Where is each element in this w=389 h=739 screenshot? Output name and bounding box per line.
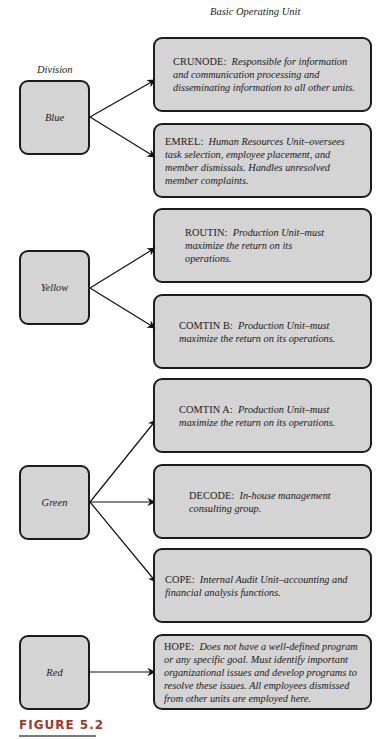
division-green: Green <box>19 465 90 540</box>
unit-routin: ROUTIN: Production Unit–must maximize th… <box>153 208 372 283</box>
division-label: Yellow <box>41 282 69 293</box>
unit-comtin-b: COMTIN B: Production Unit–must maximize … <box>153 294 372 369</box>
arrow-yellow-routin <box>90 248 155 288</box>
unit-code: EMREL: <box>165 136 203 147</box>
unit-code: COMTIN B: <box>179 320 233 331</box>
unit-code: DECODE: <box>189 490 234 501</box>
division-label: Green <box>42 497 68 508</box>
arrow-green-comtina <box>90 420 156 502</box>
arrow-green-cope <box>90 502 156 582</box>
unit-code: HOPE: <box>164 641 194 652</box>
unit-code: COPE: <box>165 574 195 585</box>
unit-code: ROUTIN: <box>185 227 227 238</box>
figure-caption: FIGURE 5.2 <box>19 718 104 732</box>
division-label: Red <box>46 667 62 678</box>
unit-code: COMTIN A: <box>179 404 233 415</box>
unit-description: Does not have a well-defined program or … <box>164 641 358 704</box>
unit-comtin-a: COMTIN A: Production Unit–must maximize … <box>153 378 372 453</box>
unit-code: CRUNODE: <box>173 56 226 67</box>
unit-hope: HOPE: Does not have a well-defined progr… <box>153 634 372 710</box>
division-blue: Blue <box>19 80 90 155</box>
unit-emrel: EMREL: Human Resources Unit–oversees tas… <box>153 123 372 198</box>
unit-cope: COPE: Internal Audit Unit–accounting and… <box>153 548 372 623</box>
arrow-yellow-comtinb <box>90 288 155 328</box>
division-label: Blue <box>45 112 64 123</box>
arrow-blue-emrel <box>90 117 155 157</box>
division-red: Red <box>19 635 90 710</box>
division-yellow: Yellow <box>19 250 90 325</box>
caption-underline <box>19 735 96 737</box>
unit-decode: DECODE: In-house management consulting g… <box>153 464 372 539</box>
arrow-blue-crunode <box>90 80 155 117</box>
unit-crunode: CRUNODE: Responsible for information and… <box>153 37 372 112</box>
